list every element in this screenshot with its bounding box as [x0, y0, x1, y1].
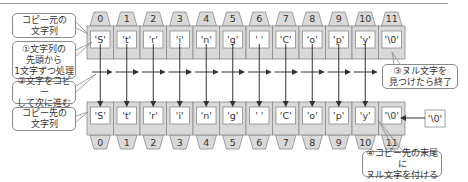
index-label: 3	[177, 13, 183, 24]
index-label: 9	[336, 137, 342, 148]
char-value: '\0'	[385, 34, 399, 45]
index-label: 7	[283, 13, 289, 24]
index-label: 7	[283, 137, 289, 148]
dest-cell: 'g'5	[220, 102, 247, 149]
index-label: 8	[309, 137, 315, 148]
char-value: 'g'	[227, 34, 238, 45]
callout-step1: ①文字列の 先頭から 1文字ずつ処理	[12, 41, 76, 79]
index-label: 5	[230, 13, 236, 24]
callout-step3: ③ヌル文字を 見つけたら終了	[382, 64, 458, 89]
dest-cell: 'p'9	[326, 102, 353, 149]
char-value: 'y'	[360, 34, 371, 45]
null-char-source: '\0'	[425, 110, 445, 127]
char-value: 'p'	[333, 110, 344, 121]
callout-step4: ④コピー先の末尾に ヌル文字を付ける	[362, 151, 442, 177]
dest-cell: 'r'2	[140, 102, 167, 149]
char-value: ' '	[255, 110, 263, 121]
dest-array: 'S'0't'1'r'2'i'3'n'4'g'5' '6'C'7'o'8'p'9…	[87, 102, 405, 149]
index-label: 9	[336, 13, 342, 24]
callout-source-string: コピー元の 文字列	[12, 13, 76, 38]
index-label: 2	[150, 137, 156, 148]
dest-cell: 'S'0	[87, 102, 114, 149]
callout-step2: ②文字をコピー して次に進む	[12, 81, 76, 104]
index-label: 6	[256, 13, 262, 24]
dest-cell: 'y'10	[352, 102, 379, 149]
char-value: 'g'	[227, 110, 238, 121]
index-label: 10	[359, 137, 371, 148]
char-value: 'o'	[307, 34, 318, 45]
dest-cell: 'o'8	[299, 102, 326, 149]
char-value: 'n'	[201, 110, 212, 121]
index-label: 1	[124, 137, 130, 148]
index-label: 0	[97, 13, 103, 24]
leader-line	[76, 74, 96, 92]
index-label: 5	[230, 137, 236, 148]
index-label: 6	[256, 137, 262, 148]
svg-text:'\0': '\0'	[428, 113, 442, 124]
index-label: 11	[386, 13, 398, 24]
index-label: 3	[177, 137, 183, 148]
dest-cell: 'n'4	[193, 102, 220, 149]
char-value: 'C'	[280, 34, 292, 45]
index-label: 8	[309, 13, 315, 24]
leader-line	[76, 112, 88, 122]
char-value: 'n'	[201, 34, 212, 45]
index-label: 10	[359, 13, 371, 24]
source-array: 'S'0't'1'r'2'i'3'n'4'g'5' '6'C'7'o'8'p'9…	[87, 12, 405, 59]
leader-line	[76, 22, 88, 34]
index-label: 2	[150, 13, 156, 24]
char-value: 't'	[122, 34, 131, 45]
dest-cell: 't'1	[114, 102, 141, 149]
char-value: 'S'	[95, 34, 106, 45]
dest-cell: 'i'3	[167, 102, 194, 149]
char-value: 'r'	[149, 34, 158, 45]
char-value: 'p'	[333, 34, 344, 45]
dest-cell: 'C'7	[273, 102, 300, 149]
index-label: 4	[203, 137, 209, 148]
source-cell: '\0'11	[379, 12, 406, 59]
char-value: 'S'	[95, 110, 106, 121]
char-value: 'i'	[176, 110, 184, 121]
dest-cell: ' '6	[246, 102, 273, 149]
char-value: 'C'	[280, 110, 292, 121]
index-label: 0	[97, 137, 103, 148]
index-label: 1	[124, 13, 130, 24]
char-value: '\0'	[385, 110, 399, 121]
char-value: 'i'	[176, 34, 184, 45]
char-value: ' '	[255, 34, 263, 45]
index-label: 4	[203, 13, 209, 24]
char-value: 'y'	[360, 110, 371, 121]
char-value: 't'	[122, 110, 131, 121]
char-value: 'r'	[149, 110, 158, 121]
char-value: 'o'	[307, 110, 318, 121]
callout-dest-string: コピー先の 文字列	[12, 107, 76, 131]
